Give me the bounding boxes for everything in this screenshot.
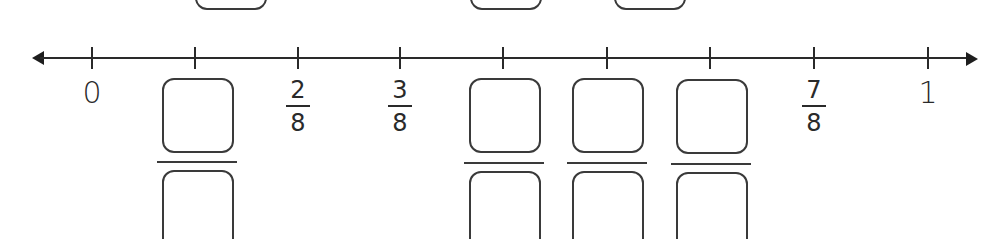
denominator: 8 xyxy=(392,111,407,135)
tick-1-eighth xyxy=(194,47,196,69)
top-partial-answer-box-2[interactable] xyxy=(470,0,542,10)
top-partial-answer-box-1[interactable] xyxy=(195,0,267,10)
denominator: 8 xyxy=(806,111,821,135)
answer-denominator-box-1[interactable] xyxy=(162,170,234,239)
label-zero: 0 xyxy=(82,78,101,108)
numerator: 7 xyxy=(806,78,821,102)
top-partial-answer-box-3[interactable] xyxy=(614,0,686,10)
answer-fraction-bar-5 xyxy=(567,162,647,164)
answer-denominator-box-4[interactable] xyxy=(469,171,541,239)
tick-4-eighths xyxy=(502,47,504,69)
answer-denominator-box-5[interactable] xyxy=(572,171,644,239)
fraction-bar xyxy=(802,105,826,107)
label-one: 1 xyxy=(918,78,937,108)
fraction-bar xyxy=(388,105,412,107)
tick-5-eighths xyxy=(606,47,608,69)
label-seven-eighths: 7 8 xyxy=(802,78,826,135)
tick-2-eighths xyxy=(297,47,299,69)
numerator: 3 xyxy=(392,78,407,102)
answer-fraction-bar-6 xyxy=(671,163,751,165)
answer-numerator-box-1[interactable] xyxy=(162,78,234,153)
numerator: 2 xyxy=(290,78,305,102)
tick-3-eighths xyxy=(399,47,401,69)
answer-numerator-box-5[interactable] xyxy=(572,78,644,153)
answer-numerator-box-6[interactable] xyxy=(676,79,748,154)
answer-fraction-bar-1 xyxy=(157,161,237,163)
fraction-bar xyxy=(286,105,310,107)
answer-fraction-bar-4 xyxy=(464,162,544,164)
answer-numerator-box-4[interactable] xyxy=(469,78,541,153)
label-three-eighths: 3 8 xyxy=(388,78,412,135)
number-line-worksheet: 0 2 8 3 8 7 8 1 xyxy=(0,0,987,239)
number-line-axis xyxy=(40,57,968,59)
tick-0 xyxy=(91,47,93,69)
tick-7-eighths xyxy=(813,47,815,69)
right-arrow-icon xyxy=(966,52,978,66)
label-two-eighths: 2 8 xyxy=(286,78,310,135)
tick-6-eighths xyxy=(709,47,711,69)
answer-denominator-box-6[interactable] xyxy=(676,172,748,239)
tick-1 xyxy=(927,47,929,69)
denominator: 8 xyxy=(290,111,305,135)
